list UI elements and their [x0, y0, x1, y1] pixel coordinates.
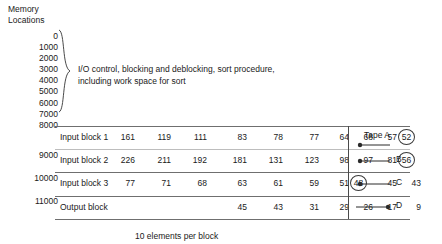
address-tick-4000: 4000	[0, 75, 58, 86]
block-label: Input block 2	[60, 155, 108, 165]
memory-locations-heading: Memory Locations	[8, 4, 44, 26]
block-value: 59	[293, 178, 319, 188]
block-value: 111	[181, 132, 207, 142]
block-value: 71	[145, 178, 171, 188]
block-value: 61	[257, 178, 283, 188]
address-tick-6000: 6000	[0, 98, 58, 109]
tape-label: Tape A	[364, 130, 390, 140]
address-tick-9000: 9000	[0, 150, 58, 160]
arrow-left-icon	[356, 179, 392, 189]
tape-label: C	[396, 177, 402, 187]
block-value: 77	[109, 178, 135, 188]
block-label: Output block	[60, 202, 108, 212]
block-label: Input block 3	[60, 178, 108, 188]
arrow-left-icon	[356, 141, 392, 149]
block-value: 226	[109, 155, 135, 165]
figure-caption: 10 elements per block	[135, 231, 218, 241]
address-tick-8000: 8000	[0, 120, 58, 131]
block-value: 123	[293, 155, 319, 165]
block-value: 161	[109, 132, 135, 142]
block-value: 211	[145, 155, 171, 165]
system-area-description: I/O control, blocking and deblocking, so…	[78, 64, 275, 87]
arrow-right-icon	[354, 202, 392, 212]
curly-brace-icon	[58, 29, 72, 113]
tape-column-divider	[348, 126, 349, 219]
block-value: 29	[323, 202, 349, 212]
tape-row: Tape A	[352, 126, 442, 149]
block-value: 45	[221, 202, 247, 212]
block-value: 63	[221, 178, 247, 188]
table-rule-bottom	[55, 219, 410, 220]
address-tick-3000: 3000	[0, 64, 58, 75]
block-value: 181	[221, 155, 247, 165]
memory-layout-figure: Memory Locations 0 1000 2000 3000 4000 5…	[0, 0, 442, 244]
address-tick-11000: 11000	[0, 196, 58, 206]
address-tick-0: 0	[0, 31, 58, 42]
address-tick-1000: 1000	[0, 42, 58, 53]
block-value: 83	[221, 132, 247, 142]
block-value: 51	[323, 178, 349, 188]
address-tick-7000: 7000	[0, 109, 58, 120]
address-scale: 0 1000 2000 3000 4000 5000 6000 7000 800…	[0, 31, 58, 131]
block-label: Input block 1	[60, 132, 108, 142]
block-value: 98	[323, 155, 349, 165]
tape-row: C	[352, 172, 442, 195]
block-value: 68	[181, 178, 207, 188]
tape-row: B	[352, 149, 442, 172]
block-value: 43	[257, 202, 283, 212]
address-tick-10000: 10000	[0, 173, 58, 183]
block-value: 192	[181, 155, 207, 165]
arrow-left-icon	[356, 156, 392, 166]
block-value: 64	[323, 132, 349, 142]
tape-label: B	[396, 154, 402, 164]
address-tick-2000: 2000	[0, 53, 58, 64]
block-value: 78	[257, 132, 283, 142]
tape-label: D	[396, 200, 402, 210]
address-tick-5000: 5000	[0, 86, 58, 97]
block-value: 131	[257, 155, 283, 165]
block-value: 119	[145, 132, 171, 142]
block-value: 31	[293, 202, 319, 212]
tape-row: D	[352, 195, 442, 218]
block-value: 77	[293, 132, 319, 142]
